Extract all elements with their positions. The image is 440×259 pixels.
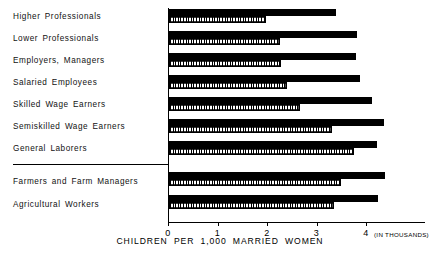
x-axis-tick-3	[317, 222, 318, 226]
bar-hatched-general-laborers	[169, 148, 354, 155]
x-axis-title: CHILDREN PER 1,000 MARRIED WOMEN	[0, 236, 440, 246]
bar-hatched-semiskilled-wage-earners	[169, 126, 332, 133]
bar-solid-semiskilled-wage-earners	[169, 119, 384, 126]
x-axis-tick-4	[366, 222, 367, 226]
bar-solid-general-laborers	[169, 141, 377, 148]
bar-hatched-farmers-and-farm-managers	[169, 179, 341, 186]
group-separator-rule	[13, 164, 169, 165]
bar-hatched-skilled-wage-earners	[169, 104, 300, 111]
category-label-general-laborers: General Laborers	[13, 144, 163, 154]
horizontal-bar-chart: Higher Professionals Lower Professionals…	[0, 0, 440, 259]
x-axis-tick-2	[267, 222, 268, 226]
x-axis-tick-1	[218, 222, 219, 226]
bar-solid-skilled-wage-earners	[169, 97, 372, 104]
category-label-salaried-employees: Salaried Employees	[13, 78, 163, 88]
bar-group-semiskilled-wage-earners	[169, 119, 384, 133]
bar-group-agricultural-workers	[169, 195, 378, 209]
bar-group-general-laborers	[169, 141, 377, 155]
category-label-employers-managers: Employers, Managers	[13, 56, 163, 66]
bar-solid-agricultural-workers	[169, 195, 378, 202]
bar-solid-salaried-employees	[169, 75, 360, 82]
bar-solid-lower-professionals	[169, 31, 357, 38]
bar-hatched-salaried-employees	[169, 82, 287, 89]
bar-group-higher-professionals	[169, 9, 336, 23]
bar-group-employers-managers	[169, 53, 356, 67]
category-label-lower-professionals: Lower Professionals	[13, 34, 163, 44]
category-label-higher-professionals: Higher Professionals	[13, 12, 163, 22]
bar-group-skilled-wage-earners	[169, 97, 372, 111]
bar-solid-farmers-and-farm-managers	[169, 172, 385, 179]
bar-hatched-employers-managers	[169, 60, 281, 67]
category-label-farmers-and-farm-managers: Farmers and Farm Managers	[13, 177, 163, 187]
bar-hatched-agricultural-workers	[169, 202, 334, 209]
bar-group-farmers-and-farm-managers	[169, 172, 385, 186]
bar-group-lower-professionals	[169, 31, 357, 45]
plot-area: 0 1 2 3 4 (IN THOUSANDS)	[168, 8, 426, 222]
category-label-skilled-wage-earners: Skilled Wage Earners	[13, 100, 163, 110]
bar-solid-higher-professionals	[169, 9, 336, 16]
x-axis-tick-0	[168, 222, 169, 226]
bar-hatched-lower-professionals	[169, 38, 280, 45]
bar-group-salaried-employees	[169, 75, 360, 89]
category-label-semiskilled-wage-earners: Semiskilled Wage Earners	[13, 122, 163, 132]
bar-hatched-higher-professionals	[169, 16, 266, 23]
category-label-agricultural-workers: Agricultural Workers	[13, 200, 163, 210]
x-axis-line	[168, 222, 425, 223]
bar-solid-employers-managers	[169, 53, 356, 60]
category-label-column: Higher Professionals Lower Professionals…	[0, 0, 168, 259]
